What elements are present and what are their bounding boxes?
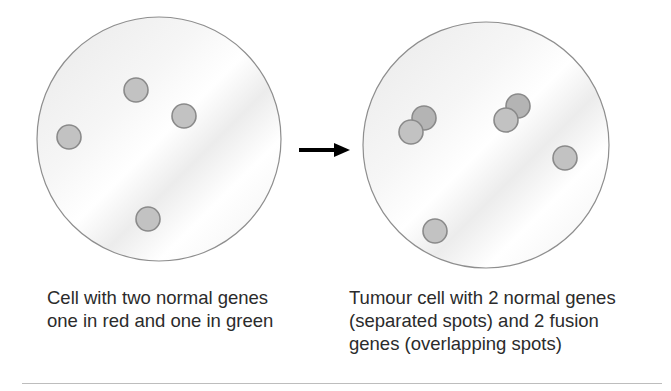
gene-spot <box>57 125 81 149</box>
normal-cell-caption: Cell with two normal genes one in red an… <box>47 286 273 332</box>
gene-spot <box>494 108 518 132</box>
gene-spot <box>172 104 196 128</box>
tumour-cell <box>363 22 609 268</box>
gene-spot <box>553 146 577 170</box>
gene-spot <box>423 219 447 243</box>
normal-cell <box>37 17 281 261</box>
caption-line: Cell with two normal genes <box>47 286 273 309</box>
tumour-cell-caption: Tumour cell with 2 normal genes (separat… <box>349 286 616 355</box>
gene-spot <box>399 120 423 144</box>
divider-line <box>22 383 662 384</box>
caption-line: genes (overlapping spots) <box>349 332 616 355</box>
caption-line: Tumour cell with 2 normal genes <box>349 286 616 309</box>
gene-spot <box>136 207 160 231</box>
gene-spot <box>124 78 148 102</box>
caption-line: (separated spots) and 2 fusion <box>349 309 616 332</box>
cell-outline <box>363 22 609 268</box>
caption-line: one in red and one in green <box>47 309 273 332</box>
arrow-icon <box>299 143 350 157</box>
